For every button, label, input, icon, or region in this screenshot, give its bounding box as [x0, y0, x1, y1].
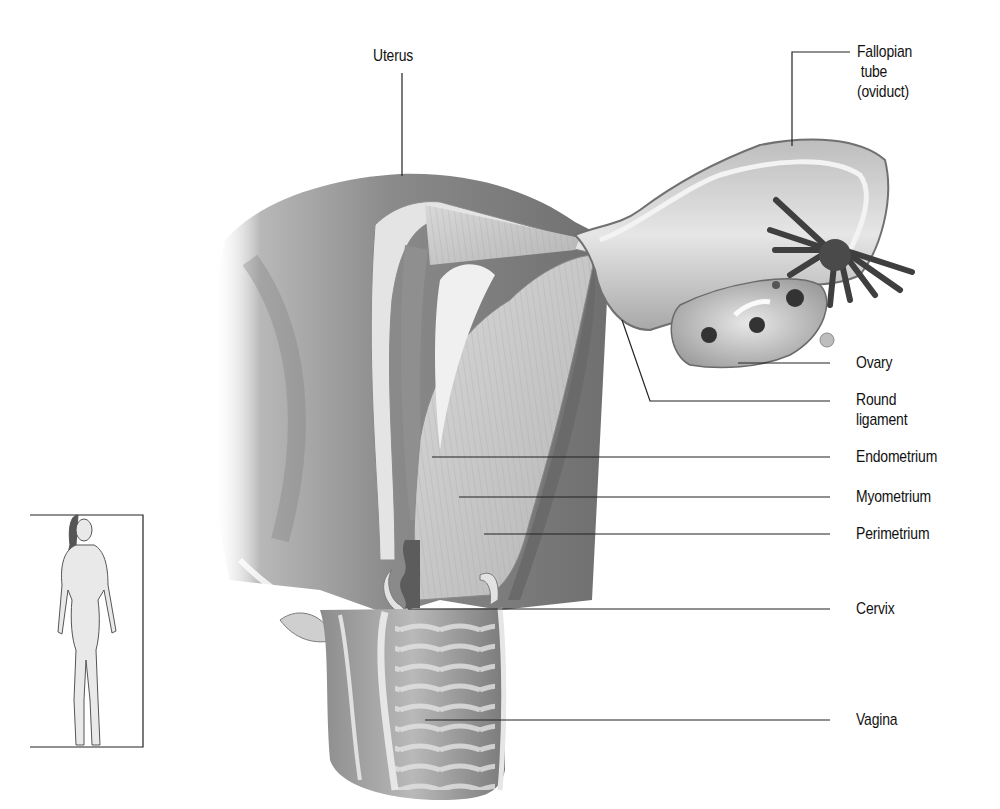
anatomy-illustration [0, 0, 1000, 809]
label-fallopian-tube-line3: (oviduct) [857, 82, 912, 102]
label-ovary: Ovary [856, 353, 892, 373]
label-fallopian-tube-line1: Fallopian [857, 42, 912, 62]
vagina [320, 608, 505, 800]
leader-fallopian-tube [792, 52, 850, 146]
label-vagina: Vagina [856, 710, 897, 730]
label-round-ligament: Round ligament [856, 390, 907, 430]
label-perimetrium: Perimetrium [856, 524, 929, 544]
label-uterus: Uterus [373, 46, 413, 66]
body-locator-inset [30, 515, 143, 747]
label-endometrium: Endometrium [856, 447, 937, 467]
label-round-ligament-line2: ligament [856, 410, 907, 430]
label-myometrium: Myometrium [856, 487, 931, 507]
female-figure-icon [58, 515, 116, 745]
ovum [820, 333, 834, 347]
label-fallopian-tube-line2: tube [857, 62, 912, 82]
label-round-ligament-line1: Round [856, 390, 907, 410]
label-cervix: Cervix [856, 599, 895, 619]
label-fallopian-tube: Fallopian tube (oviduct) [857, 42, 912, 102]
